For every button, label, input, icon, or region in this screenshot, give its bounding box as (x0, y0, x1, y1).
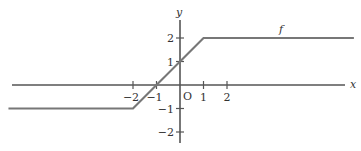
x-tick-label: 2 (224, 91, 231, 104)
x-axis-label: x (350, 78, 357, 91)
origin-label: O (183, 90, 192, 103)
y-tick-label: −1 (158, 103, 174, 116)
y-tick-label: 2 (167, 32, 174, 45)
y-axis-label: y (175, 6, 183, 19)
piecewise-function-graph: −2−112 21−1−2 x y O f (0, 0, 361, 151)
x-tick-label: −2 (123, 91, 139, 104)
y-tick-label: 1 (167, 56, 174, 69)
y-tick-label: −2 (158, 126, 174, 139)
curve-label-f: f (278, 23, 285, 36)
x-tick-label: 1 (200, 91, 207, 104)
curve-f (8, 38, 353, 109)
